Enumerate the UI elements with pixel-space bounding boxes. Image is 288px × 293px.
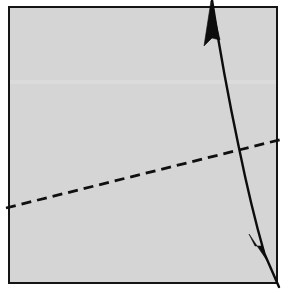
figure-root — [0, 0, 288, 293]
faint-horizontal-band — [10, 80, 276, 84]
diagram-canvas — [0, 0, 288, 293]
diagram-panel — [9, 7, 277, 283]
